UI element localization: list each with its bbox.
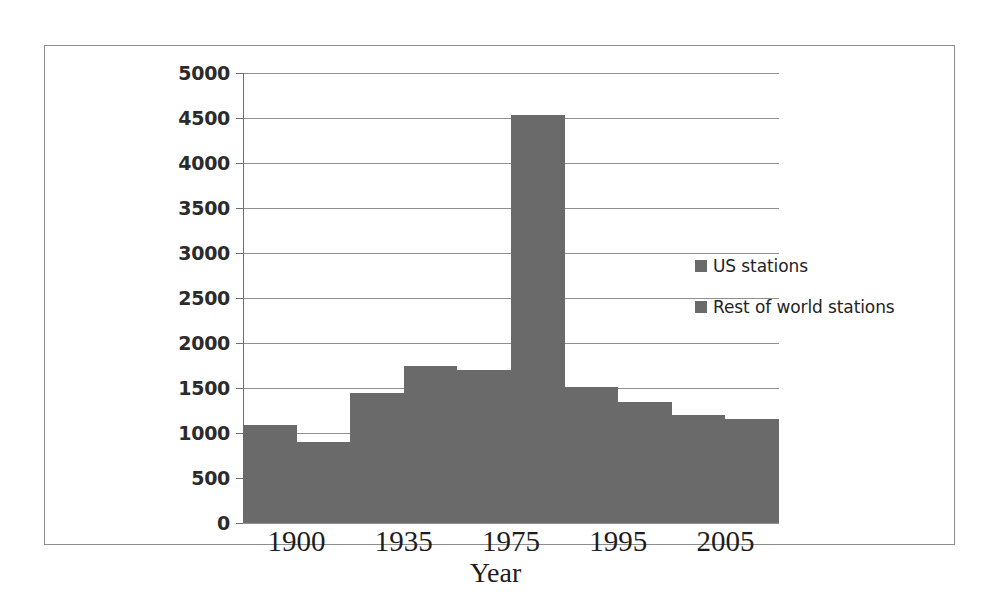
bar <box>350 393 404 523</box>
y-tick-label: 3000 <box>178 242 230 264</box>
y-tick-mark <box>236 523 243 524</box>
y-tick-mark <box>236 478 243 479</box>
legend-item: US stations <box>695 256 945 276</box>
bar-group <box>243 73 350 523</box>
x-axis-line <box>243 522 779 523</box>
x-tick-label: 1900 <box>268 525 326 558</box>
y-tick-mark <box>236 208 243 209</box>
y-tick-mark <box>236 163 243 164</box>
y-tick-label: 2500 <box>178 287 230 309</box>
y-tick-label: 500 <box>191 467 230 489</box>
bar <box>457 370 511 523</box>
chart-legend: US stationsRest of world stations <box>695 256 945 338</box>
bar-group <box>565 73 672 523</box>
bar <box>618 402 672 523</box>
y-tick-mark <box>236 433 243 434</box>
legend-swatch-icon <box>695 260 707 272</box>
bar-group <box>350 73 457 523</box>
gridline <box>243 523 779 524</box>
bar <box>565 387 619 523</box>
x-tick-label: 1995 <box>589 525 647 558</box>
bar <box>511 115 565 523</box>
x-tick-label: 2005 <box>696 525 754 558</box>
bar <box>725 419 779 523</box>
x-tick-label: 1975 <box>482 525 540 558</box>
y-tick-label: 1000 <box>178 422 230 444</box>
y-tick-mark <box>236 118 243 119</box>
chart-frame: 0500100015002000250030003500400045005000… <box>44 45 955 545</box>
bar <box>404 366 458 524</box>
y-tick-mark <box>236 73 243 74</box>
y-tick-label: 2000 <box>178 332 230 354</box>
bar <box>243 425 297 523</box>
x-tick-label: 1935 <box>375 525 433 558</box>
y-tick-label: 0 <box>217 512 230 534</box>
bar <box>297 442 351 523</box>
bar-group <box>457 73 564 523</box>
x-axis-title: Year <box>0 557 991 589</box>
y-tick-label: 4000 <box>178 152 230 174</box>
legend-label: US stations <box>713 256 808 276</box>
legend-item: Rest of world stations <box>695 297 945 317</box>
y-tick-label: 1500 <box>178 377 230 399</box>
y-tick-mark <box>236 253 243 254</box>
y-tick-mark <box>236 298 243 299</box>
y-tick-label: 4500 <box>178 107 230 129</box>
bar <box>672 415 726 523</box>
legend-label: Rest of world stations <box>713 297 895 317</box>
legend-swatch-icon <box>695 301 707 313</box>
y-tick-mark <box>236 388 243 389</box>
y-tick-label: 5000 <box>178 62 230 84</box>
y-tick-label: 3500 <box>178 197 230 219</box>
y-tick-mark <box>236 343 243 344</box>
